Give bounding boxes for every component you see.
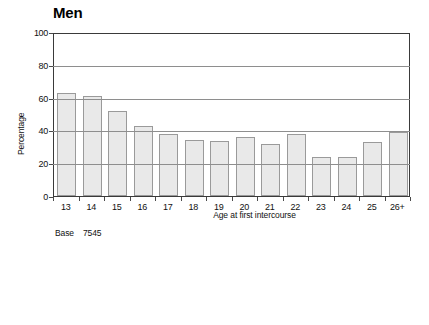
bar <box>185 140 204 196</box>
x-axis-tick-mark <box>385 197 386 201</box>
bar <box>363 142 382 196</box>
bar <box>108 111 127 196</box>
y-axis-tick-mark <box>49 164 53 165</box>
x-axis-tick-mark <box>232 197 233 201</box>
x-axis-tick-mark <box>155 197 156 201</box>
y-axis-tick-mark <box>49 131 53 132</box>
bar-series-men <box>54 34 409 196</box>
y-axis-tick-label: 0 <box>22 192 48 202</box>
bar <box>236 137 255 196</box>
y-axis-tick-label: 60 <box>22 94 48 104</box>
bar <box>261 144 280 196</box>
chart-title-men: Men <box>53 4 82 21</box>
x-axis-tick-mark <box>359 197 360 201</box>
x-axis-tick-mark <box>283 197 284 201</box>
y-axis-tick-label: 40 <box>22 126 48 136</box>
y-axis-tick-mark <box>49 66 53 67</box>
y-axis-tick-label: 100 <box>22 28 48 38</box>
x-axis-tick-mark <box>181 197 182 201</box>
y-axis-tick-label: 80 <box>22 61 48 71</box>
x-axis-tick-mark <box>206 197 207 201</box>
y-axis-tick-mark <box>49 33 53 34</box>
bar <box>83 96 102 196</box>
bar <box>210 141 229 196</box>
x-axis-tick-mark <box>130 197 131 201</box>
x-axis-tick-mark <box>257 197 258 201</box>
y-axis-tick-label: 20 <box>22 159 48 169</box>
x-axis-tick-mark <box>53 197 54 201</box>
x-axis-label-men: Age at first intercourse <box>0 210 429 220</box>
x-axis-tick-mark <box>410 197 411 201</box>
chart-page: Men Percentage 020406080100 131415161718… <box>0 0 429 325</box>
bar <box>338 157 357 196</box>
base-note-men: Base7545 <box>55 228 102 238</box>
x-axis-tick-mark <box>334 197 335 201</box>
bar <box>312 157 331 196</box>
gridline <box>53 66 410 67</box>
x-axis-tick-mark <box>308 197 309 201</box>
gridline <box>53 164 410 165</box>
gridline <box>53 131 410 132</box>
bar <box>134 126 153 196</box>
plot-area-men <box>53 33 410 197</box>
base-label: Base <box>55 228 74 238</box>
gridline <box>53 99 410 100</box>
base-value: 7545 <box>83 228 102 238</box>
bar <box>57 93 76 196</box>
y-axis-tick-mark <box>49 99 53 100</box>
chart-panel-women: Women 80100 <box>0 256 429 325</box>
chart-panel-men: Men Percentage 020406080100 131415161718… <box>0 0 429 250</box>
x-axis-tick-mark <box>104 197 105 201</box>
x-axis-tick-mark <box>79 197 80 201</box>
